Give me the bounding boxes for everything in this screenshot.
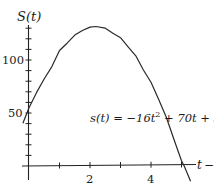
equation-annotation: s(t) = −16t2 + 70t + 55 bbox=[90, 110, 214, 125]
equation-tail: + 70t + 55 bbox=[160, 111, 214, 125]
x-tick-label-2: 2 bbox=[86, 172, 93, 184]
x-axis-arrow-dash: − bbox=[204, 158, 214, 172]
y-axis-label: S(t) bbox=[17, 9, 41, 24]
y-tick-label-50: 50 bbox=[8, 106, 23, 120]
x-axis-label: t bbox=[197, 158, 202, 172]
chart-canvas: S(t) t − 100 50 2 4 s(t) = −16t2 + 70t +… bbox=[0, 0, 214, 184]
y-tick-label-100: 100 bbox=[2, 53, 24, 67]
curve-s-of-t bbox=[23, 27, 191, 182]
x-tick-label-4: 4 bbox=[147, 172, 154, 184]
equation-main: s(t) = −16t bbox=[90, 111, 156, 125]
x-axis bbox=[22, 165, 196, 167]
